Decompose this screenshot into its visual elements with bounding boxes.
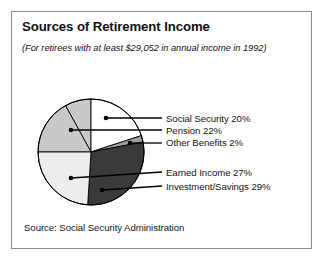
- pie-label-earned-income: Earned Income 27%: [166, 167, 252, 178]
- pie-slice-earned-income: [38, 152, 91, 205]
- pie-label-pension: Pension 22%: [166, 125, 222, 136]
- chart-source-note: Source: Social Security Administration: [24, 222, 184, 233]
- pie-label-social-security: Social Security 20%: [166, 113, 250, 124]
- pie-chart-figure: Sources of Retirement Income (For retire…: [0, 0, 327, 265]
- pie-label-other-benefits: Other Benefits 2%: [166, 137, 243, 148]
- pie-label-investment-savings: Investment/Savings 29%: [166, 181, 271, 192]
